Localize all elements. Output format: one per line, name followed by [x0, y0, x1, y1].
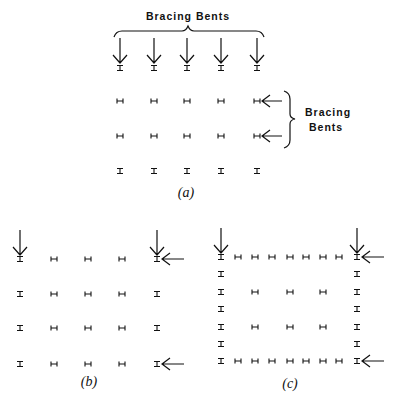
- column-h-section-icon: [336, 359, 342, 364]
- column-i-section-icon: [354, 272, 360, 277]
- column-h-section-icon: [119, 292, 125, 297]
- column-i-section-icon: [17, 362, 23, 367]
- column-h-section-icon: [184, 134, 190, 139]
- column-i-section-icon: [254, 169, 260, 174]
- column-i-section-icon: [17, 257, 23, 262]
- column-h-section-icon: [252, 325, 258, 330]
- column-h-section-icon: [320, 359, 326, 364]
- down-arrow-icon: [113, 38, 127, 63]
- column-i-section-icon: [151, 66, 157, 71]
- column-i-section-icon: [218, 66, 224, 71]
- column-h-section-icon: [336, 255, 342, 260]
- column-h-section-icon: [235, 255, 241, 260]
- column-i-section-icon: [17, 292, 23, 297]
- left-arrow-icon: [262, 95, 282, 107]
- left-arrow-icon: [362, 251, 384, 263]
- column-h-section-icon: [303, 255, 309, 260]
- column-i-section-icon: [354, 342, 360, 347]
- column-i-section-icon: [354, 325, 360, 330]
- column-h-section-icon: [303, 359, 309, 364]
- column-h-section-icon: [51, 326, 57, 331]
- column-h-section-icon: [117, 134, 123, 139]
- column-i-section-icon: [218, 307, 224, 312]
- down-arrow-icon: [180, 38, 194, 63]
- column-h-section-icon: [287, 325, 293, 330]
- column-i-section-icon: [117, 66, 123, 71]
- panel-b-arrows: [13, 230, 184, 370]
- column-h-section-icon: [320, 290, 326, 295]
- column-h-section-icon: [119, 362, 125, 367]
- down-arrow-icon: [13, 230, 27, 255]
- column-h-section-icon: [119, 326, 125, 331]
- panel-b: (b): [13, 230, 184, 390]
- top-bracing-bents-label: Bracing Bents: [146, 10, 230, 22]
- column-h-section-icon: [252, 290, 258, 295]
- column-h-section-icon: [51, 362, 57, 367]
- column-h-section-icon: [218, 134, 224, 139]
- panel-a-caption: (a): [178, 185, 195, 201]
- panel-a-columns: [117, 66, 260, 174]
- column-h-section-icon: [51, 292, 57, 297]
- column-i-section-icon: [154, 257, 160, 262]
- column-i-section-icon: [354, 290, 360, 295]
- column-i-section-icon: [218, 359, 224, 364]
- down-arrow-icon: [350, 228, 364, 253]
- column-h-section-icon: [51, 257, 57, 262]
- column-i-section-icon: [184, 66, 190, 71]
- column-h-section-icon: [151, 99, 157, 104]
- down-arrow-icon: [150, 230, 164, 255]
- column-h-section-icon: [184, 99, 190, 104]
- column-h-section-icon: [287, 255, 293, 260]
- side-bracing-label: Bracing: [305, 106, 351, 118]
- column-i-section-icon: [218, 255, 224, 260]
- down-arrow-icon: [250, 38, 264, 63]
- panel-a: Bracing Bents Bracing Bents (a): [113, 10, 351, 201]
- panel-a-arrows: [113, 38, 282, 142]
- column-h-section-icon: [218, 99, 224, 104]
- column-i-section-icon: [154, 362, 160, 367]
- down-arrow-icon: [147, 38, 161, 63]
- side-bents-label: Bents: [309, 121, 343, 133]
- panel-b-caption: (b): [81, 374, 98, 390]
- column-i-section-icon: [218, 272, 224, 277]
- panel-c-columns: [218, 255, 360, 364]
- panel-b-columns: [17, 257, 160, 367]
- column-h-section-icon: [235, 359, 241, 364]
- column-i-section-icon: [218, 169, 224, 174]
- column-i-section-icon: [218, 325, 224, 330]
- down-arrow-icon: [214, 228, 228, 253]
- left-arrow-icon: [162, 358, 184, 370]
- column-h-section-icon: [151, 134, 157, 139]
- left-arrow-icon: [162, 253, 184, 265]
- left-arrow-icon: [362, 355, 384, 367]
- side-brace-bracket: [284, 91, 295, 148]
- down-arrow-icon: [214, 38, 228, 63]
- column-i-section-icon: [154, 292, 160, 297]
- column-i-section-icon: [154, 326, 160, 331]
- top-brace-bracket: [114, 26, 264, 37]
- column-i-section-icon: [184, 169, 190, 174]
- column-h-section-icon: [254, 134, 260, 139]
- bracing-bents-diagram: Bracing Bents Bracing Bents (a) (b) (c): [0, 0, 396, 403]
- column-h-section-icon: [269, 359, 275, 364]
- column-i-section-icon: [354, 359, 360, 364]
- left-arrow-icon: [262, 130, 282, 142]
- column-i-section-icon: [218, 290, 224, 295]
- column-i-section-icon: [151, 169, 157, 174]
- column-i-section-icon: [354, 255, 360, 260]
- column-h-section-icon: [117, 99, 123, 104]
- column-h-section-icon: [85, 326, 91, 331]
- column-i-section-icon: [117, 169, 123, 174]
- column-h-section-icon: [119, 257, 125, 262]
- column-i-section-icon: [354, 307, 360, 312]
- column-i-section-icon: [254, 66, 260, 71]
- column-h-section-icon: [252, 359, 258, 364]
- column-i-section-icon: [17, 326, 23, 331]
- column-h-section-icon: [320, 325, 326, 330]
- column-h-section-icon: [85, 257, 91, 262]
- column-h-section-icon: [85, 362, 91, 367]
- column-h-section-icon: [254, 99, 260, 104]
- column-h-section-icon: [269, 255, 275, 260]
- panel-c: (c): [214, 228, 384, 392]
- column-h-section-icon: [85, 292, 91, 297]
